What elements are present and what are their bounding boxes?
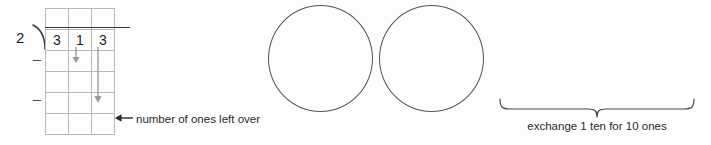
grid-cell-remainder[interactable] <box>92 114 115 135</box>
left-arrow-icon <box>115 112 133 124</box>
leftover-caption: number of ones left over <box>136 113 260 125</box>
minus-sign-first-subtraction: – <box>31 54 43 64</box>
grid-row <box>46 72 115 93</box>
minus-sign-second-subtraction: – <box>31 94 43 104</box>
grid-cell-dividend-hundreds[interactable]: 3 <box>46 30 69 51</box>
grid-cell[interactable] <box>46 114 69 135</box>
grid-cell[interactable] <box>46 72 69 93</box>
bring-down-ones-arrow-icon <box>93 47 103 105</box>
exchange-caption: exchange 1 ten for 10 ones <box>498 120 696 132</box>
ten-circle-1[interactable] <box>268 5 373 112</box>
grid-cell[interactable] <box>69 93 92 114</box>
worksheet-canvas: 2 3 1 3 <box>0 0 711 145</box>
division-vinculum-rule <box>45 27 130 28</box>
long-division-work-area: 2 3 1 3 <box>0 0 140 145</box>
bring-down-tens-arrow-icon <box>71 47 81 65</box>
curly-brace-icon <box>498 98 696 118</box>
grid-cell[interactable] <box>46 51 69 72</box>
grid-cell[interactable] <box>46 93 69 114</box>
divisor-digit: 2 <box>16 29 24 47</box>
grid-cell[interactable] <box>69 114 92 135</box>
grid-cell[interactable] <box>69 72 92 93</box>
grid-row <box>46 93 115 114</box>
ten-circle-2[interactable] <box>379 5 484 112</box>
grid-row-remainder <box>46 114 115 135</box>
